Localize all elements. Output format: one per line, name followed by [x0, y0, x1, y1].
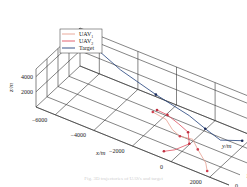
- z-tick-label: 4000: [21, 74, 33, 80]
- data-point-uav1: [179, 135, 182, 138]
- y-axis-label: y/m: [221, 142, 232, 149]
- chart-3d-trajectory: −6000−4000−20000200001000200030004000200…: [0, 0, 247, 187]
- x-axis-label: x/m: [95, 149, 106, 156]
- x-tick-label: −6000: [32, 117, 47, 123]
- data-point-uav2: [187, 131, 190, 134]
- x-tick-label: −4000: [71, 132, 86, 138]
- data-point-target: [204, 127, 207, 130]
- data-point-uav2: [166, 114, 169, 117]
- z-axis-label: z/m: [7, 83, 14, 93]
- data-point-uav1: [152, 111, 155, 114]
- data-point-uav1: [206, 170, 209, 173]
- legend-label-target: Target: [79, 45, 94, 51]
- data-point-uav2: [188, 143, 191, 146]
- tick-labels: −6000−4000−20000200001000200030004000200…: [21, 74, 247, 187]
- data-point-uav1: [197, 148, 200, 151]
- legend: UAV1 UAV2 Target: [60, 29, 102, 53]
- x-tick-label: −2000: [109, 148, 124, 154]
- data-point-uav2: [156, 109, 159, 112]
- data-point-target: [155, 93, 158, 96]
- floor-edge: [36, 107, 229, 185]
- floor-grid-y: [58, 87, 247, 165]
- series-line-target: [92, 45, 242, 141]
- data-point-target: [241, 139, 244, 142]
- back-wall-top: [80, 28, 247, 106]
- y-tick-label: 0: [235, 183, 238, 187]
- z-tick-label: 2000: [21, 89, 33, 95]
- back-wall-grid-z: [80, 36, 247, 114]
- data-point-uav2: [163, 150, 166, 153]
- floor-grid-y: [80, 66, 247, 144]
- x-tick-label: 0: [160, 164, 163, 170]
- figure-caption: Fig. 3D trajectories of UAVs and target: [0, 176, 247, 181]
- floor-edge: [80, 66, 247, 144]
